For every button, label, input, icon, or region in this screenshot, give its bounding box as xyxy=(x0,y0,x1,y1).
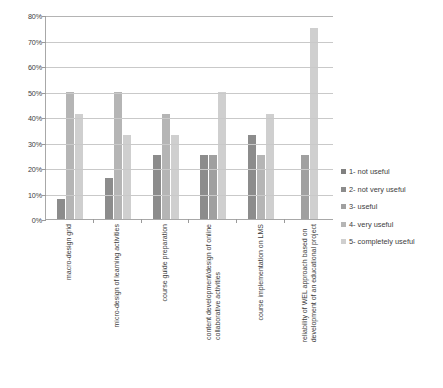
x-axis-label-cell: macro-design grid xyxy=(45,224,93,384)
y-axis-tick-label: 60% xyxy=(28,63,42,72)
legend-label: 2- not very useful xyxy=(349,185,406,194)
x-axis-labels: macro-design gridmicro-design of learnin… xyxy=(45,224,333,384)
legend-item[interactable]: 2- not very useful xyxy=(341,181,443,199)
legend-item[interactable]: 5- completely useful xyxy=(341,233,443,251)
y-axis: 0%10%20%30%40%50%60%70%80% xyxy=(6,16,42,220)
x-axis-label-cell: content development/design of onlinecoll… xyxy=(189,224,237,384)
x-axis-label-cell: reliability of WEL approach based ondeve… xyxy=(285,224,333,384)
bar xyxy=(218,92,226,220)
y-axis-tickmark xyxy=(42,16,46,17)
x-axis-tickmark xyxy=(188,219,189,223)
x-axis-label-line: micro-design of learning activities xyxy=(113,224,120,328)
bar xyxy=(66,92,74,220)
gridline xyxy=(46,195,333,196)
legend-swatch-icon xyxy=(341,169,346,174)
bar xyxy=(123,135,131,219)
gridline xyxy=(46,169,333,170)
legend-item[interactable]: 1- not useful xyxy=(341,163,443,181)
y-axis-tick-label: 80% xyxy=(28,12,42,21)
x-axis-category-label: reliability of WEL approach based ondeve… xyxy=(301,224,318,342)
y-axis-tick-label: 30% xyxy=(28,139,42,148)
gridline xyxy=(46,93,333,94)
x-axis-category-label: content development/design of onlinecoll… xyxy=(205,224,222,340)
bar xyxy=(248,135,256,219)
gridline xyxy=(46,42,333,43)
legend-item[interactable]: 3- useful xyxy=(341,198,443,216)
bar xyxy=(153,155,161,219)
bar xyxy=(301,155,309,219)
x-axis-category-label: macro-design grid xyxy=(65,224,74,280)
x-axis-category-label: course implementation on LMS xyxy=(257,224,266,321)
x-axis-category-label: course guide preparation xyxy=(161,224,170,301)
plot-area xyxy=(45,16,333,220)
chart-legend: 1- not useful2- not very useful3- useful… xyxy=(341,163,443,251)
bar xyxy=(266,114,274,219)
x-axis-label-line: course guide preparation xyxy=(161,224,168,301)
y-axis-tick-label: 70% xyxy=(28,37,42,46)
x-axis-tickmark xyxy=(284,219,285,223)
x-axis-category-label: micro-design of learning activities xyxy=(113,224,122,328)
y-axis-tick-label: 0% xyxy=(32,216,42,225)
y-axis-tickmark xyxy=(42,42,46,43)
x-axis-tickmark xyxy=(141,219,142,223)
gridline xyxy=(46,16,333,17)
plot-wrapper: 0%10%20%30%40%50%60%70%80% macro-design … xyxy=(0,0,340,388)
x-axis-label-line: content development/design of online xyxy=(205,224,212,340)
x-axis-tickmark xyxy=(236,219,237,223)
bar xyxy=(75,114,83,219)
y-axis-tickmark xyxy=(42,195,46,196)
legend-item[interactable]: 4- very useful xyxy=(341,216,443,234)
y-axis-tick-label: 50% xyxy=(28,88,42,97)
x-axis-label-cell: course implementation on LMS xyxy=(237,224,285,384)
bar xyxy=(200,155,208,219)
y-axis-tickmark xyxy=(42,93,46,94)
legend-swatch-icon xyxy=(341,239,346,244)
bar xyxy=(105,178,113,219)
x-axis-label-line: macro-design grid xyxy=(65,224,72,280)
gridline xyxy=(46,144,333,145)
bar xyxy=(310,28,318,219)
y-axis-tickmark xyxy=(42,67,46,68)
y-axis-tickmark xyxy=(42,169,46,170)
bar-chart: 0%10%20%30%40%50%60%70%80% macro-design … xyxy=(0,0,443,388)
legend-label: 4- very useful xyxy=(349,220,393,229)
bar xyxy=(209,155,217,219)
legend-swatch-icon xyxy=(341,187,346,192)
bar xyxy=(114,92,122,220)
y-axis-tick-label: 40% xyxy=(28,114,42,123)
y-axis-tick-label: 20% xyxy=(28,165,42,174)
legend-swatch-icon xyxy=(341,222,346,227)
bar xyxy=(57,199,65,219)
legend-label: 3- useful xyxy=(349,202,377,211)
x-axis-label-line: collaborative activities xyxy=(213,224,222,340)
x-axis-label-line: course implementation on LMS xyxy=(257,224,264,321)
bar xyxy=(171,135,179,219)
gridline xyxy=(46,67,333,68)
y-axis-tickmark xyxy=(42,118,46,119)
x-axis-label-line: development of an educational project xyxy=(309,224,318,342)
bar xyxy=(257,155,265,219)
y-axis-tickmark xyxy=(42,220,46,221)
x-axis-label-line: reliability of WEL approach based on xyxy=(301,229,308,343)
bar xyxy=(162,114,170,219)
x-axis-label-cell: micro-design of learning activities xyxy=(93,224,141,384)
y-axis-tickmark xyxy=(42,144,46,145)
x-axis-tickmark xyxy=(93,219,94,223)
x-axis-label-cell: course guide preparation xyxy=(141,224,189,384)
y-axis-tick-label: 10% xyxy=(28,190,42,199)
legend-label: 1- not useful xyxy=(349,167,390,176)
legend-swatch-icon xyxy=(341,204,346,209)
gridline xyxy=(46,118,333,119)
legend-label: 5- completely useful xyxy=(349,237,415,246)
